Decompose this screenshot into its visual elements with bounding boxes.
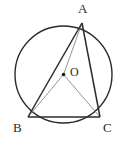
vertex-label-b: B	[13, 121, 22, 134]
vertex-label-c: C	[103, 121, 112, 134]
geometry-figure: A B C O	[0, 0, 126, 145]
segment-OB	[28, 75, 64, 118]
vertex-label-a: A	[78, 2, 87, 15]
segment-OC	[64, 75, 101, 118]
segment-AC	[82, 23, 100, 117]
center-label-o: O	[70, 66, 79, 78]
center-point-dot	[62, 73, 66, 77]
